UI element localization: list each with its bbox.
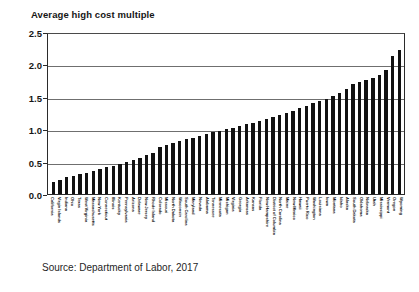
x-tick-label: Kansas: [251, 197, 255, 211]
x-tick-slot: Missouri: [163, 196, 170, 256]
bar-slot: [110, 34, 117, 194]
bar: [291, 111, 294, 194]
bar-slot: [210, 34, 217, 194]
x-tick-slot: South Carolina: [183, 196, 190, 256]
bar-slot: [296, 34, 303, 194]
x-tick-label: Wyoming: [399, 197, 403, 215]
bar-slot: [97, 34, 104, 194]
x-tick-label: Kentucky: [117, 197, 121, 215]
x-tick-label: Hawaii: [298, 197, 302, 210]
x-tick-label: Minnesota: [218, 197, 222, 217]
x-tick-slot: Nevada: [196, 196, 203, 256]
x-tick-label: Tennessee: [211, 197, 215, 217]
bar: [345, 89, 348, 194]
x-tick-label: Mississippi: [379, 197, 383, 219]
x-tick-label: Maine: [285, 197, 289, 208]
bar: [364, 80, 367, 194]
x-tick-label: Pennsylvania: [124, 197, 128, 223]
x-tick-slot: Hawaii: [297, 196, 304, 256]
bar: [311, 103, 314, 194]
y-tick-mark: [43, 195, 47, 196]
y-tick-mark: [43, 98, 47, 99]
bar: [185, 139, 188, 194]
x-tick-label: Virgin Islands: [57, 197, 61, 223]
x-tick-label: New York: [97, 197, 101, 215]
bar: [391, 56, 394, 194]
x-tick-label: North Carolina: [278, 197, 282, 225]
x-tick-label: California: [50, 197, 54, 215]
x-tick-label: Michigan: [224, 197, 228, 214]
bar-slot: [383, 34, 390, 194]
x-tick-label: Colorado: [157, 197, 161, 215]
bar-slot: [83, 34, 90, 194]
x-tick-slot: Georgia: [237, 196, 244, 256]
bar-slot: [350, 34, 357, 194]
y-tick-label: 1.5: [16, 92, 42, 103]
x-tick-slot: Illinois: [109, 196, 116, 256]
x-tick-slot: Oregon: [391, 196, 398, 256]
x-tick-label: New Hampshire: [265, 197, 269, 227]
bar: [218, 131, 221, 195]
x-tick-slot: Washington: [310, 196, 317, 256]
bar-slot: [256, 34, 263, 194]
chart-title: Average high cost multiple: [31, 9, 155, 20]
x-tick-label: Wisconsin: [178, 197, 182, 217]
bar: [112, 166, 115, 195]
y-tick-mark: [43, 163, 47, 164]
bar-slot: [336, 34, 343, 194]
bar-slot: [236, 34, 243, 194]
bar-slot: [77, 34, 84, 194]
bar: [118, 164, 121, 194]
x-tick-label: Rhode Island: [151, 197, 155, 222]
x-tick-label: North Dakota: [171, 197, 175, 222]
x-tick-label: Texas: [77, 197, 81, 208]
x-tick-slot: North Dakota: [170, 196, 177, 256]
bar-slot: [50, 34, 57, 194]
bar: [384, 70, 387, 194]
chart-container: Average high cost multiple 2.52.01.51.00…: [0, 0, 419, 292]
x-tick-slot: Michigan: [223, 196, 230, 256]
x-tick-label: Georgia: [238, 197, 242, 212]
x-tick-label: Delaware: [137, 197, 141, 215]
x-tick-slot: Kentucky: [116, 196, 123, 256]
bar-slot: [123, 34, 130, 194]
bar-slot: [143, 34, 150, 194]
bar: [351, 84, 354, 194]
bar-slot: [356, 34, 363, 194]
x-tick-slot: New Hampshire: [264, 196, 271, 256]
x-tick-slot: Idaho: [337, 196, 344, 256]
x-tick-label: Missouri: [164, 197, 168, 213]
bar-slot: [290, 34, 297, 194]
x-tick-slot: California: [49, 196, 56, 256]
x-tick-label: South Carolina: [184, 197, 188, 225]
x-tick-label: Oregon: [392, 197, 396, 211]
x-tick-label: Arkansas: [245, 197, 249, 215]
x-tick-slot: Arizona: [129, 196, 136, 256]
x-tick-label: Maryland: [191, 197, 195, 215]
bar-slot: [117, 34, 124, 194]
bar: [105, 167, 108, 194]
bar: [211, 132, 214, 194]
bar: [225, 129, 228, 194]
x-tick-slot: Montana: [331, 196, 338, 256]
bar-slot: [363, 34, 370, 194]
y-tick-label: 2.5: [16, 28, 42, 39]
y-tick-label: 0.0: [16, 190, 42, 201]
x-tick-slot: Virginia: [230, 196, 237, 256]
bar-slot: [163, 34, 170, 194]
y-axis: 2.52.01.51.00.50.0: [12, 0, 42, 292]
x-tick-slot: New York: [96, 196, 103, 256]
bar-slot: [376, 34, 383, 194]
x-tick-slot: Alaska: [344, 196, 351, 256]
x-tick-slot: Maine: [284, 196, 291, 256]
bar: [92, 171, 95, 194]
bar-slot: [57, 34, 64, 194]
bar-slot: [176, 34, 183, 194]
bar: [245, 124, 248, 194]
x-tick-slot: Pennsylvania: [123, 196, 130, 256]
x-tick-slot: New Mexico: [290, 196, 297, 256]
bar: [398, 50, 401, 194]
bar: [178, 141, 181, 194]
x-tick-slot: Oklahoma: [357, 196, 364, 256]
x-tick-label: Iowa: [325, 197, 329, 206]
